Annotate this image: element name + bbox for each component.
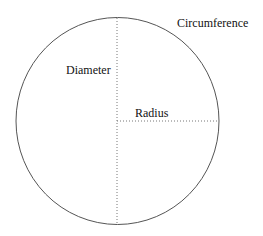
circumference-label: Circumference xyxy=(177,17,248,29)
radius-label: Radius xyxy=(135,107,168,119)
circle-diagram xyxy=(0,0,263,236)
diameter-label: Diameter xyxy=(66,64,111,76)
